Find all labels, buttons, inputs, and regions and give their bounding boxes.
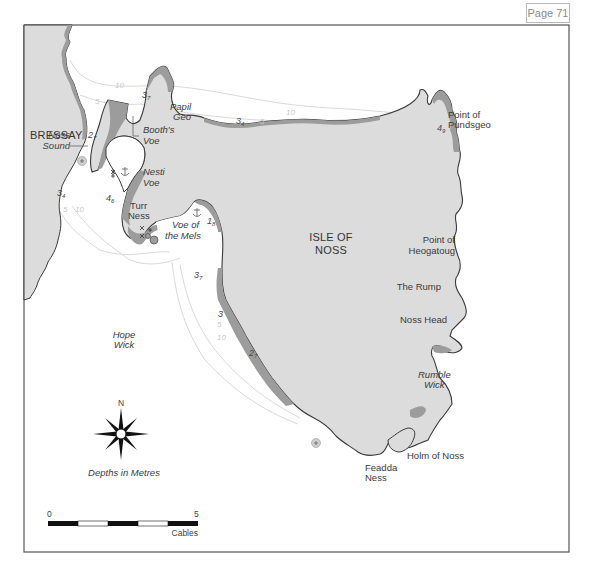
svg-text:5: 5 [260,117,265,126]
turr-ness-label-2: Ness [128,210,150,221]
svg-text:10: 10 [75,205,84,214]
hope-wick-label-2: Wick [114,339,136,350]
svg-text:10: 10 [115,81,124,90]
island-label-line1: ISLE OF [309,231,353,243]
compass-north-label: N [118,398,124,408]
sounding: 3 [218,309,223,319]
holm-of-noss-label: Holm of Noss [407,450,464,461]
noss-head-label: Noss Head [400,314,447,325]
svg-text:10: 10 [286,108,295,117]
papil-geo-label-2: Geo [173,111,191,122]
point-of-heogatoug-label-1: Point of [423,234,456,245]
point-of-heogatoug-label-2: Heogatoug [409,245,455,256]
island-label-line2: NOSS [315,244,347,256]
booths-voe-label-1: Booth's [143,124,175,135]
scale-end-label: 5 [194,509,199,519]
noss-sound-label-1: Noss [48,129,70,140]
chart-map: BRESSAY ISLE OF NOSS Noss Sound Booth's … [0,0,591,573]
scale-unit-label: Cables [172,528,198,538]
nesti-voe-label-2: Voe [143,177,160,188]
booths-voe-label-2: Voe [143,135,160,146]
feadda-ness-label-2: Ness [365,472,387,483]
the-rump-label: The Rump [397,281,441,292]
rumble-wick-label-2: Wick [424,379,446,390]
point-of-pundsgeo-label-2: Pundsgeo [448,119,491,130]
obstruction-marker [78,157,87,166]
noss-sound-label-2: Sound [43,140,71,151]
svg-text:5: 5 [63,205,68,214]
voe-of-the-mels-label-2: the Mels [165,230,201,241]
nesti-voe-label-1: Nesti [143,166,166,177]
svg-text:5: 5 [217,320,222,329]
depth-note: Depths in Metres [88,467,160,478]
scale-start-label: 0 [47,509,52,519]
voe-of-the-mels-label-1: Voe of [172,219,200,230]
svg-text:5: 5 [95,97,100,106]
svg-text:10: 10 [217,333,226,342]
obstruction-marker [312,439,321,448]
